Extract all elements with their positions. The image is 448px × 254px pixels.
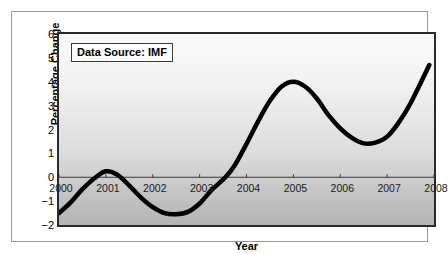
y-axis-tick-label: 1: [32, 148, 54, 159]
x-axis-tick-label: 2008: [424, 183, 447, 194]
x-axis-tick-label: 2007: [377, 183, 400, 194]
y-axis-tick-label: 0: [32, 172, 54, 183]
y-axis-tick-label: 3: [32, 100, 54, 111]
plot-area: Data Source: IMF 20002001200220032004200…: [57, 32, 436, 227]
y-axis-tick-label: 5: [32, 52, 54, 63]
chart-outer-frame: Percentage Change 6543210−1−2 Data Sourc…: [11, 11, 428, 242]
y-axis-tick-label: −1: [32, 196, 54, 207]
x-axis-tick-label: 2005: [284, 183, 307, 194]
x-axis-title: Year: [57, 240, 436, 252]
y-axis-tick-label: 2: [32, 124, 54, 135]
x-axis-tick-label: 2003: [190, 183, 213, 194]
y-axis-tick-label: 4: [32, 76, 54, 87]
y-axis-tick-label: 6: [32, 29, 54, 40]
plot-canvas: [59, 34, 434, 225]
x-axis-tick-label: 2001: [96, 183, 119, 194]
data-source-annotation: Data Source: IMF: [71, 43, 173, 62]
x-axis-tick-label: 2006: [331, 183, 354, 194]
y-axis-tick-labels: 6543210−1−2: [26, 32, 54, 227]
y-axis-tick-label: −2: [32, 220, 54, 231]
x-axis-tick-label: 2002: [143, 183, 166, 194]
x-axis-tick-label: 2004: [237, 183, 260, 194]
x-axis-tick-label: 2000: [49, 183, 72, 194]
